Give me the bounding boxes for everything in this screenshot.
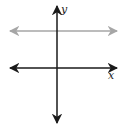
- x-axis-label: x: [108, 69, 115, 82]
- y-axis-label: y: [60, 3, 68, 16]
- coordinate-plane: y x: [0, 0, 126, 125]
